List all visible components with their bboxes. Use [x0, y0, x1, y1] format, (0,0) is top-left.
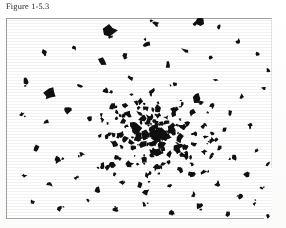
fragment-marker: [98, 57, 107, 67]
fragment-speck: [210, 132, 215, 136]
fragment-speck: [100, 117, 104, 123]
fragment-speck: [121, 113, 125, 118]
fragment-speck: [143, 154, 145, 156]
fragment-speck: [163, 115, 169, 120]
fragment-marker: [71, 45, 77, 51]
fragment-marker: [265, 214, 270, 219]
fragment-marker: [192, 18, 206, 29]
fragment-speck: [115, 116, 118, 120]
fragment-speck: [115, 109, 118, 114]
fragment-speck: [207, 111, 209, 113]
fragment-speck: [110, 141, 118, 147]
fragment-speck: [137, 144, 139, 146]
fragment-marker: [142, 37, 152, 48]
page-canvas: Figure 1-5.3: [0, 0, 286, 228]
fragment-marker: [243, 171, 251, 178]
fragment-marker: [93, 185, 102, 194]
fragment-speck: [128, 139, 135, 145]
fragment-speck: [175, 124, 179, 127]
fragment-marker: [52, 153, 65, 165]
fragment-marker: [124, 160, 134, 169]
fragment-marker: [222, 127, 227, 133]
fragment-marker: [140, 199, 149, 208]
fragment-scatter-plot: [6, 18, 272, 219]
fragment-marker: [189, 161, 195, 167]
fragment-marker: [216, 24, 222, 30]
fragment-speck: [120, 118, 126, 124]
fragment-speck: [180, 100, 182, 101]
fragment-marker: [166, 150, 174, 158]
fragment-speck: [136, 163, 139, 166]
fragment-speck: [134, 100, 139, 105]
fragment-speck: [137, 182, 142, 189]
fragment-speck: [203, 135, 209, 138]
fragment-marker: [21, 172, 27, 178]
fragment-speck: [155, 112, 161, 118]
fragment-speck: [175, 142, 178, 144]
fragment-speck: [207, 141, 209, 143]
fragment-marker: [29, 198, 35, 205]
fragment-speck: [151, 107, 154, 112]
fragment-marker: [42, 87, 57, 101]
figure-caption: Figure 1-5.3: [6, 2, 49, 11]
fragment-marker: [200, 148, 208, 155]
fragment-marker: [149, 18, 161, 28]
fragment-marker: [265, 68, 271, 73]
fragment-marker: [40, 49, 48, 57]
fragment-speck: [131, 136, 134, 138]
fragment-speck: [148, 181, 151, 183]
fragment-marker: [18, 111, 26, 119]
fragment-speck: [209, 155, 213, 159]
fragment-marker: [261, 85, 267, 91]
fragment-marker: [77, 84, 84, 88]
fragment-marker: [168, 209, 176, 217]
fragment-speck: [160, 162, 166, 165]
scatter-canvas: [6, 18, 272, 219]
fragment-marker: [259, 185, 265, 191]
fragment-marker: [141, 188, 151, 197]
fragment-marker: [209, 102, 216, 109]
fragment-marker: [214, 180, 222, 188]
fragment-marker: [118, 179, 126, 185]
figure-frame: [6, 18, 272, 219]
fragment-speck: [98, 134, 102, 138]
fragment-marker: [190, 92, 206, 107]
fragment-marker: [86, 198, 91, 203]
fragment-marker: [213, 78, 219, 82]
fragment-marker: [227, 153, 238, 164]
fragment-marker: [253, 148, 259, 153]
fragment-marker: [226, 109, 234, 117]
fragment-speck: [129, 93, 133, 96]
fragment-speck: [157, 172, 160, 174]
fragment-marker: [195, 201, 205, 212]
fragment-marker: [127, 74, 135, 82]
fragment-marker: [167, 183, 173, 189]
fragment-marker: [87, 116, 93, 122]
fragment-marker: [113, 153, 123, 163]
fragment-marker: [96, 160, 107, 171]
fragment-marker: [56, 204, 65, 213]
fragment-marker: [200, 167, 210, 178]
fragment-marker: [73, 174, 79, 180]
fragment-speck: [100, 113, 103, 117]
fragment-marker: [122, 52, 129, 60]
fragment-speck: [137, 106, 141, 111]
fragment-marker: [101, 23, 119, 40]
fragment-marker: [217, 145, 222, 151]
fragment-marker: [224, 210, 232, 218]
fragment-marker: [236, 192, 244, 200]
fragment-marker: [265, 161, 270, 167]
fragment-marker: [43, 119, 50, 126]
fragment-speck: [189, 154, 192, 160]
fragment-marker: [63, 105, 73, 115]
fragment-marker: [190, 191, 196, 198]
fragment-marker: [238, 93, 244, 99]
fragment-marker: [181, 46, 190, 55]
fragment-marker: [77, 152, 85, 159]
fragment-marker: [251, 199, 258, 206]
fragment-speck: [189, 109, 196, 117]
fragment-marker: [178, 101, 185, 108]
fragment-marker: [20, 77, 31, 88]
fragment-marker: [163, 60, 172, 69]
fragment-marker: [255, 51, 261, 57]
